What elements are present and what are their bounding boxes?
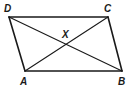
- label-c: C: [104, 3, 112, 14]
- side-CB: [108, 17, 122, 71]
- label-x: X: [61, 29, 70, 40]
- diagonals: [9, 17, 122, 71]
- diagonal-DB: [9, 17, 122, 71]
- label-d: D: [4, 3, 11, 14]
- label-a: A: [19, 76, 27, 87]
- side-AD: [9, 17, 25, 71]
- label-b: B: [118, 76, 125, 87]
- parallelogram-diagram: DCBAX: [0, 0, 131, 88]
